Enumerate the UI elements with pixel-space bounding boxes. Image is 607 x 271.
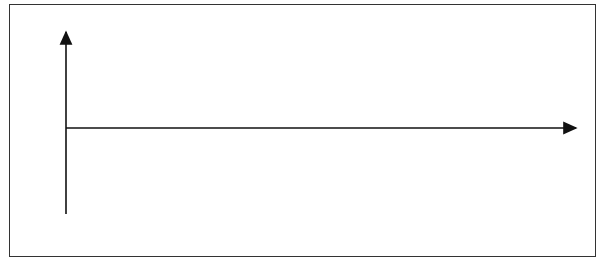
- pulse-chart: [0, 0, 607, 271]
